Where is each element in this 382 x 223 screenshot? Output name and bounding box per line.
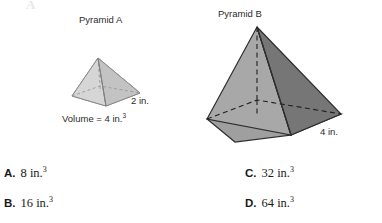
answer-choice-c-letter: C.	[245, 167, 257, 179]
pyramid-b-figure	[205, 22, 365, 144]
pyramid-b-title: Pyramid B	[218, 8, 262, 19]
answer-choice-b-letter: B.	[4, 197, 16, 209]
answer-choice-a-exponent: 3	[43, 165, 47, 174]
answer-choice-b-exponent: 3	[49, 195, 53, 204]
pyramid-a-volume-exponent: 3	[122, 112, 126, 119]
answer-choice-a-letter: A.	[4, 167, 16, 179]
pyramid-a-title: Pyramid A	[79, 14, 122, 25]
answer-choice-c-value: 32 in.	[262, 166, 290, 180]
answer-choice-a-value: 8 in.	[21, 166, 43, 180]
answer-choice-b[interactable]: B.16 in.3	[4, 196, 53, 211]
answer-choice-d-exponent: 3	[290, 195, 294, 204]
pyramid-a-edge-label: 2 in.	[131, 95, 149, 106]
answer-choice-c[interactable]: C.32 in.3	[245, 166, 294, 181]
answer-choice-c-exponent: 3	[290, 165, 294, 174]
scan-artifact-text: A	[26, 0, 36, 13]
pyramid-b-edge-label: 4 in.	[320, 126, 338, 137]
answer-choice-b-value: 16 in.	[21, 196, 49, 210]
pyramid-a-figure	[60, 48, 185, 110]
worksheet-page: A Pyramid A 2 in. Volume = 4 in.3 Pyrami…	[0, 0, 382, 223]
pyramid-a-volume-label: Volume = 4 in.3	[62, 113, 126, 124]
answer-choice-d[interactable]: D.64 in.3	[245, 196, 294, 211]
answer-choice-d-value: 64 in.	[262, 196, 290, 210]
answer-choice-d-letter: D.	[245, 197, 257, 209]
answer-choice-a[interactable]: A.8 in.3	[4, 166, 47, 181]
pyramid-a-volume-text: Volume = 4 in.	[62, 113, 122, 124]
